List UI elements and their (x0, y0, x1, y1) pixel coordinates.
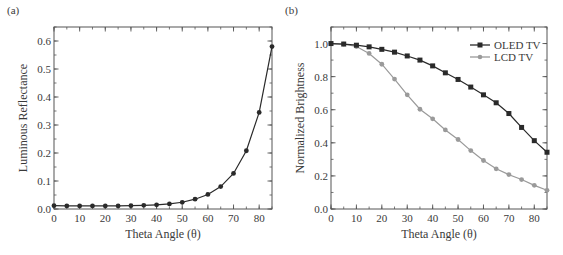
data-point-circle (231, 171, 236, 176)
data-point-circle (244, 148, 249, 153)
x-tick-label: 20 (100, 212, 112, 224)
y-axis-label: Luminous Reflectance (16, 64, 30, 172)
data-point-circle (392, 77, 397, 82)
x-tick-label: 0 (328, 212, 334, 224)
data-point-circle (154, 202, 159, 207)
data-point-square (519, 125, 524, 130)
data-point-circle (481, 158, 486, 163)
y-tick-label: 0.0 (37, 203, 51, 215)
data-point-circle (129, 203, 134, 208)
panel-label: (a) (7, 4, 20, 17)
legend-label: OLED TV (494, 39, 541, 51)
y-tick-label: 0.4 (314, 137, 328, 149)
data-point-circle (77, 204, 82, 209)
data-point-circle (545, 188, 550, 193)
y-tick-label: 0.6 (314, 104, 328, 116)
data-point-square (417, 58, 422, 63)
x-tick-label: 10 (74, 212, 86, 224)
data-point-square (532, 138, 537, 143)
y-tick-label: 0.2 (314, 170, 328, 182)
data-point-square (329, 41, 334, 46)
data-point-circle (180, 200, 185, 205)
data-point-circle (443, 128, 448, 133)
data-point-square (443, 70, 448, 75)
data-point-square (354, 43, 359, 48)
data-point-circle (405, 92, 410, 97)
data-point-circle (367, 51, 372, 56)
y-tick-label: 1.0 (314, 38, 328, 50)
x-tick-label: 30 (402, 212, 414, 224)
x-tick-label: 10 (351, 212, 363, 224)
x-axis-label: Theta Angle (θ) (401, 227, 477, 241)
y-tick-label: 0.0 (314, 203, 328, 215)
series-line (331, 44, 547, 191)
x-tick-label: 70 (228, 212, 240, 224)
data-point-circle (116, 204, 121, 209)
data-point-circle (532, 183, 537, 188)
data-point-square (506, 111, 511, 116)
y-tick-label: 0.6 (37, 35, 51, 47)
y-tick-label: 0.4 (37, 91, 51, 103)
data-point-square (481, 92, 486, 97)
data-point-circle (506, 172, 511, 177)
data-point-square (456, 77, 461, 82)
data-point-square (379, 47, 384, 52)
chart-panel-b: (b)010203040506070800.00.20.40.60.81.0Th… (285, 4, 550, 241)
series-line (54, 47, 272, 206)
legend-label: LCD TV (494, 51, 533, 63)
x-tick-label: 50 (177, 212, 189, 224)
data-point-circle (257, 110, 262, 115)
chart-panel-a: (a)010203040506070800.00.10.20.30.40.50.… (7, 4, 274, 241)
x-tick-label: 20 (376, 212, 388, 224)
data-point-square (367, 44, 372, 49)
x-tick-label: 70 (503, 212, 515, 224)
data-point-circle (193, 197, 198, 202)
y-tick-label: 0.5 (37, 63, 51, 75)
data-point-circle (519, 177, 524, 182)
data-point-circle (52, 203, 57, 208)
x-tick-label: 40 (427, 212, 439, 224)
data-point-square (392, 50, 397, 55)
x-tick-label: 0 (51, 212, 57, 224)
data-point-circle (270, 44, 275, 49)
data-point-square (341, 42, 346, 47)
legend-square-marker (478, 43, 483, 48)
data-point-square (545, 150, 550, 155)
legend-circle-marker (478, 55, 483, 60)
x-tick-label: 80 (529, 212, 541, 224)
x-axis-label: Theta Angle (θ) (125, 227, 201, 241)
y-tick-label: 0.3 (37, 119, 51, 131)
data-point-circle (141, 203, 146, 208)
data-point-square (405, 53, 410, 58)
x-tick-label: 60 (478, 212, 490, 224)
series-lcd-tv (329, 41, 550, 193)
data-point-circle (103, 204, 108, 209)
data-point-square (430, 63, 435, 68)
y-axis-label: Normalized Brightness (293, 62, 307, 173)
data-point-circle (167, 202, 172, 207)
data-point-circle (205, 192, 210, 197)
data-point-circle (456, 137, 461, 142)
x-tick-label: 30 (125, 212, 137, 224)
figure: (a)010203040506070800.00.10.20.30.40.50.… (0, 0, 563, 255)
series-luminous-reflectance (52, 44, 275, 208)
x-tick-label: 50 (453, 212, 465, 224)
x-tick-label: 40 (151, 212, 163, 224)
data-point-circle (418, 107, 423, 112)
legend: OLED TVLCD TV (470, 39, 541, 63)
y-tick-label: 0.8 (314, 71, 328, 83)
data-point-circle (90, 204, 95, 209)
data-point-circle (218, 184, 223, 189)
plot-frame (54, 27, 272, 209)
data-point-square (494, 100, 499, 105)
data-point-circle (494, 166, 499, 171)
x-tick-label: 60 (202, 212, 214, 224)
y-tick-label: 0.2 (37, 147, 51, 159)
panel-label: (b) (285, 4, 298, 17)
data-point-circle (430, 116, 435, 121)
data-point-circle (468, 148, 473, 153)
data-point-circle (64, 204, 69, 209)
y-tick-label: 0.1 (37, 175, 51, 187)
data-point-square (468, 85, 473, 90)
x-tick-label: 80 (254, 212, 266, 224)
